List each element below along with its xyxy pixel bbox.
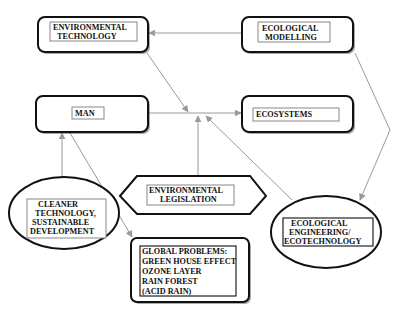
node-environmental-technology: ENVIRONMENTAL TECHNOLOGY <box>38 17 150 54</box>
node-ecosystems: ECOSYSTEMS <box>242 96 355 134</box>
label-line: TECHNOLOGY, <box>35 209 96 218</box>
label-line: ENGINEERING/ <box>289 228 351 237</box>
node-man: MAN <box>36 96 150 134</box>
label-line: ECOTECHNOLOGY <box>284 237 361 246</box>
node-ecological-engineering: ECOLOGICAL ENGINEERING/ ECOTECHNOLOGY <box>271 196 381 268</box>
label-line: GREEN HOUSE EFFECT <box>142 257 237 266</box>
label-line: GLOBAL PROBLEMS: <box>142 247 227 256</box>
node-global-problems: GLOBAL PROBLEMS: GREEN HOUSE EFFECT OZON… <box>131 238 251 304</box>
label-line: ECOLOGICAL <box>291 219 348 228</box>
label-line: CLEANER <box>38 200 78 209</box>
node-ecological-modelling: ECOLOGICAL MODELLING <box>242 17 355 54</box>
edge-modelling-to-ecoeng <box>355 53 390 200</box>
label-line: DEVELOPMENT <box>30 227 95 236</box>
node-environmental-legislation: ENVIRONMENTAL LEGISLATION <box>120 176 266 214</box>
label-line: ENVIRONMENTAL <box>149 186 224 195</box>
label-line: ENVIRONMENTAL <box>53 23 128 32</box>
node-cleaner-technology: CLEANER TECHNOLOGY, SUSTAINABLE DEVELOPM… <box>9 177 119 249</box>
edge-envtech-to-center <box>147 53 188 112</box>
label-line: RAIN FOREST <box>142 277 198 286</box>
label-line: SUSTAINABLE <box>32 218 90 227</box>
label-line: (ACID RAIN) <box>142 287 192 296</box>
label-line: OZONE LAYER <box>142 267 202 276</box>
label-line: ECOSYSTEMS <box>256 110 312 119</box>
label-line: LEGISLATION <box>160 195 217 204</box>
label-line: MODELLING <box>265 33 317 42</box>
label-line: ECOLOGICAL <box>262 24 319 33</box>
label-line: MAN <box>75 109 95 118</box>
ecotechnology-diagram: ENVIRONMENTAL TECHNOLOGY ECOLOGICAL MODE… <box>0 0 396 314</box>
label-line: TECHNOLOGY <box>57 32 117 41</box>
